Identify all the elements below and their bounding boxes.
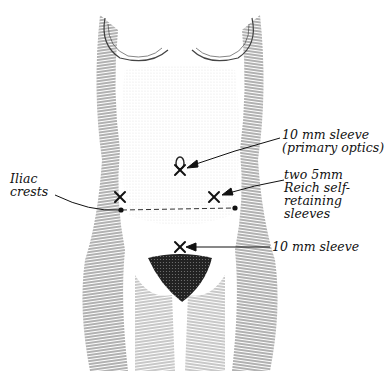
left-iliac-dot <box>118 207 123 212</box>
primary-sleeve-label: 10 mm sleeve (primary optics) <box>282 128 384 154</box>
abdomen-shading <box>121 65 240 225</box>
laparoscopy-port-diagram: 10 mm sleeve (primary optics) two 5mm Re… <box>0 0 392 371</box>
right-flank-shading <box>232 15 278 371</box>
pubic-region <box>148 254 212 302</box>
iliac-crests-label: Iliac crests <box>10 172 48 198</box>
right-iliac-dot <box>232 205 237 210</box>
breast-shading <box>104 18 253 61</box>
suprapubic-port-marker <box>175 242 185 252</box>
reich-sleeves-label: two 5mm Reich self- retaining sleeves <box>284 168 350 220</box>
lower-sleeve-label: 10 mm sleeve <box>272 240 359 253</box>
left-flank-shading <box>82 15 128 371</box>
